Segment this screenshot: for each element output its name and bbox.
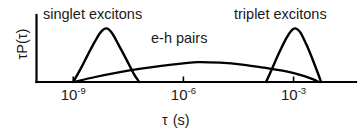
x-tick-label-2: 10-3 [281,86,306,103]
chart-figure: singlet excitons e-h pairs triplet excit… [0,0,361,139]
x-tick-label-2-exponent: -3 [298,85,306,96]
x-axis-title: τ(s) [162,112,190,128]
y-axis-title: τP(τ) [14,14,30,74]
x-tick-label-2-base: 10 [281,86,298,103]
x-axis-title-unit: (s) [173,112,190,128]
curve-eh-pairs [73,62,319,82]
x-tick-label-1: 10-6 [171,86,196,103]
x-tick-label-0-base: 10 [61,86,78,103]
annotation-singlet-excitons: singlet excitons [43,6,142,22]
x-axis-title-symbol: τ [162,112,168,128]
x-tick-label-1-base: 10 [171,86,188,103]
x-tick-label-0: 10-9 [61,86,86,103]
x-tick-label-0-exponent: -9 [77,85,85,96]
annotation-eh-pairs: e-h pairs [151,30,207,46]
annotation-triplet-excitons: triplet excitons [234,6,327,22]
x-tick-label-1-exponent: -6 [188,85,196,96]
